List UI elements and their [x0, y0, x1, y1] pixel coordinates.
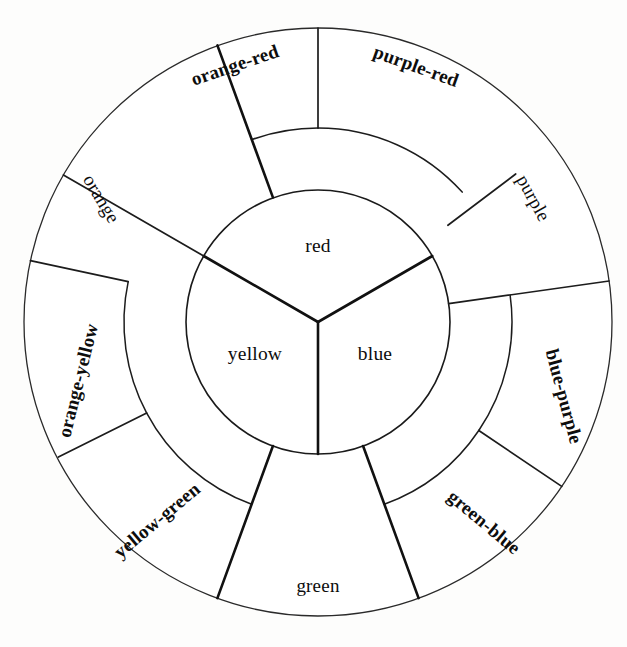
label-blue: blue [358, 343, 392, 364]
color-wheel-svg: red yellow blue orange green purple oran… [0, 0, 627, 647]
color-wheel-figure: red yellow blue orange green purple oran… [0, 0, 627, 647]
label-green: green [296, 575, 339, 596]
label-yellow: yellow [228, 343, 282, 364]
label-red: red [305, 235, 331, 256]
